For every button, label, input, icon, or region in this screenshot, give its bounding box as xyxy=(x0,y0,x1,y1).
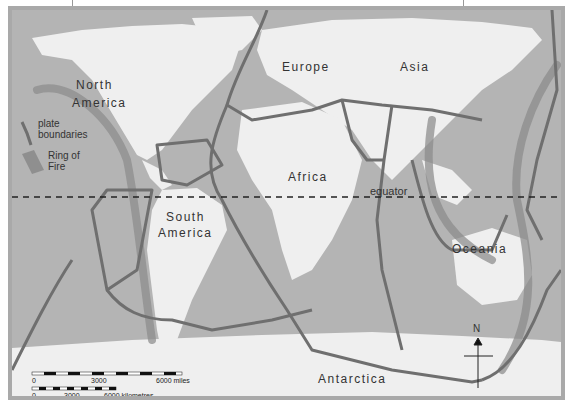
world-map: North America Europe Asia Africa equator… xyxy=(12,10,561,396)
label-oceania: Oceania xyxy=(452,242,507,256)
label-north-america-1: North xyxy=(76,78,113,92)
scale-miles-zero: 0 xyxy=(32,377,36,384)
label-south-america-1: South xyxy=(166,210,205,224)
compass-north-label: N xyxy=(473,323,480,334)
label-south-america-2: America xyxy=(158,226,213,240)
legend-plate-1: plate xyxy=(38,118,60,129)
legend-ring-1: Ring of xyxy=(48,150,80,161)
scale-miles-end: 6000 miles xyxy=(156,377,190,384)
legend-ring-2: Fire xyxy=(48,161,65,172)
label-equator: equator xyxy=(370,186,407,197)
map-frame: North America Europe Asia Africa equator… xyxy=(8,6,565,400)
ring-of-fire-swatch xyxy=(22,150,44,174)
legend-plate-2: boundaries xyxy=(38,129,87,140)
label-antarctica: Antarctica xyxy=(318,372,386,386)
scale-km-end: 6000 kilometres xyxy=(104,392,153,396)
scale-miles-mid: 3000 xyxy=(91,377,107,384)
scale-km-zero: 0 xyxy=(32,392,36,396)
label-north-america-2: America xyxy=(72,96,127,110)
label-asia: Asia xyxy=(400,60,429,74)
label-africa: Africa xyxy=(288,170,328,184)
scale-km-mid: 3000 xyxy=(64,392,80,396)
plate-boundary-swatch xyxy=(22,122,31,145)
label-europe: Europe xyxy=(282,60,330,74)
